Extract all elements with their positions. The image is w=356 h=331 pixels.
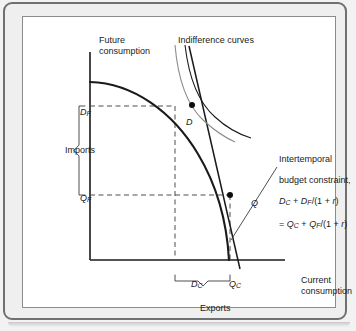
x-tick-qc-base: Q: [229, 279, 236, 289]
production-possibility-frontier: [90, 82, 229, 260]
y-axis-label-line2: consumption: [99, 46, 150, 56]
annotation-formula-line2: = QC + QF/(1 + r): [279, 219, 347, 229]
x-tick-dc-sub: C: [198, 282, 203, 289]
y-tick-label-df: DF: [80, 107, 91, 120]
diagram-panel: Futureconsumption Indifference curves DF…: [22, 16, 336, 308]
imports-label: Imports: [65, 145, 95, 156]
y-tick-qf-base: Q: [80, 193, 87, 203]
x-tick-qc-sub: C: [236, 282, 241, 289]
y-tick-qf-sub: F: [87, 196, 91, 203]
point-q-label: Q: [251, 198, 258, 209]
indifference-curves-label: Indifference curves: [178, 35, 254, 46]
card-drop-shadow: [8, 322, 350, 327]
y-axis-label: Futureconsumption: [99, 35, 150, 56]
point-q-marker: [227, 192, 233, 198]
y-tick-df-sub: F: [87, 110, 91, 117]
intertemporal-budget-constraint-line: [189, 46, 240, 269]
point-d-marker: [189, 102, 195, 108]
x-axis-label: Currentconsumption: [301, 275, 352, 296]
annotation-line1: Intertemporal: [279, 154, 332, 164]
annotation-formula-line1: DC + DF/(1 + r): [279, 196, 338, 206]
indifference-curve-lower: [175, 45, 235, 142]
y-axis-label-line1: Future: [99, 35, 125, 45]
x-tick-label-dc: DC: [191, 279, 203, 292]
y-tick-label-qf: QF: [80, 193, 91, 206]
indifference-curve-upper: [185, 45, 251, 138]
annotation-line2: budget constraint,: [279, 175, 351, 185]
figure-card: Futureconsumption Indifference curves DF…: [3, 2, 347, 320]
x-tick-label-qc: QC: [229, 279, 241, 292]
point-d-label: D: [186, 117, 193, 128]
figure-root: Futureconsumption Indifference curves DF…: [0, 0, 356, 331]
budget-constraint-annotation: Intertemporal budget constraint, DC + DF…: [259, 143, 351, 242]
x-axis-label-line2: consumption: [301, 286, 352, 296]
x-axis-label-line1: Current: [301, 275, 331, 285]
exports-label: Exports: [200, 303, 231, 314]
